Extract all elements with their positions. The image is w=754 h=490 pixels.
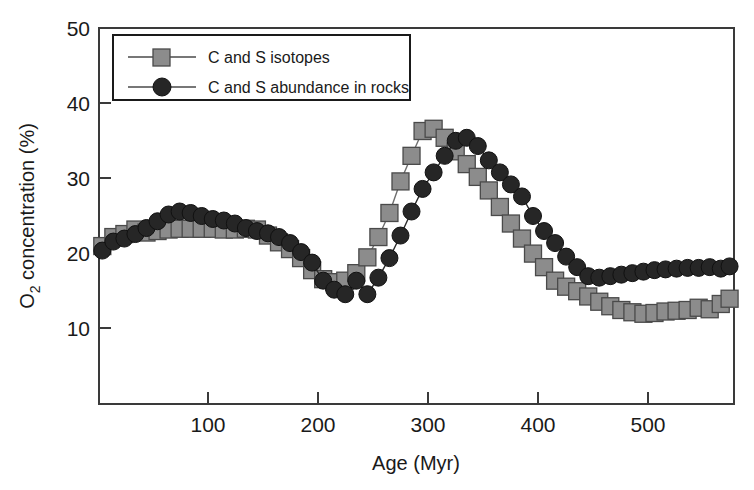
data-point — [392, 173, 409, 190]
data-point — [513, 188, 530, 205]
x-tick-label-500: 500 — [630, 413, 665, 436]
o2-concentration-chart: 50 40 30 20 10 100 200 300 400 500 Age (… — [0, 0, 754, 490]
legend-label-abundance: C and S abundance in rocks — [208, 79, 409, 96]
x-axis-title: Age (Myr) — [372, 452, 460, 474]
data-point — [348, 272, 365, 289]
data-point — [370, 269, 387, 286]
data-point — [304, 254, 321, 271]
data-point — [525, 208, 542, 225]
y-tick-label-30: 30 — [67, 167, 90, 190]
data-point — [547, 235, 564, 252]
data-point — [425, 164, 442, 181]
data-point — [403, 203, 420, 220]
data-point — [359, 286, 376, 303]
x-tick-label-300: 300 — [410, 413, 445, 436]
x-tick-label-200: 200 — [300, 413, 335, 436]
y-tick-label-40: 40 — [67, 92, 90, 115]
x-tick-label-400: 400 — [520, 413, 555, 436]
y-tick-label-10: 10 — [67, 317, 90, 340]
legend-label-isotopes: C and S isotopes — [208, 49, 330, 66]
data-point — [359, 249, 376, 266]
y-tick-label-50: 50 — [67, 17, 90, 40]
data-point — [337, 286, 354, 303]
data-point — [436, 147, 453, 164]
legend-circle-marker-icon — [153, 78, 171, 96]
data-point — [469, 138, 486, 155]
data-point — [414, 180, 431, 197]
legend-square-marker-icon — [153, 49, 170, 66]
x-tick-label-100: 100 — [190, 413, 225, 436]
y-tick-label-20: 20 — [67, 242, 90, 265]
data-point — [480, 182, 497, 199]
data-point — [403, 147, 420, 164]
data-point — [721, 258, 738, 275]
data-point — [381, 250, 398, 267]
legend-entry-isotopes: C and S isotopes — [128, 49, 330, 66]
data-point — [491, 198, 508, 215]
data-point — [392, 227, 409, 244]
data-point — [381, 204, 398, 221]
data-point — [370, 229, 387, 246]
chart-legend: C and S isotopes C and S abundance in ro… — [113, 35, 410, 100]
data-point — [721, 290, 738, 307]
